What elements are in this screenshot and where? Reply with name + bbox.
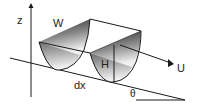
width-w-label: W: [53, 17, 64, 29]
diagram-canvas: z W H U dx θ: [0, 0, 198, 106]
height-h-label: H: [101, 58, 109, 70]
z-axis-arrowhead-icon: [29, 3, 34, 8]
dx-label: dx: [74, 79, 86, 91]
back-top-edge: [90, 19, 141, 31]
z-axis-label: z: [17, 14, 23, 26]
channel-diagram: z W H U dx θ: [0, 0, 198, 106]
theta-label: θ: [130, 88, 136, 99]
velocity-u-label: U: [177, 62, 185, 74]
velocity-arrowhead-icon: [168, 59, 174, 67]
